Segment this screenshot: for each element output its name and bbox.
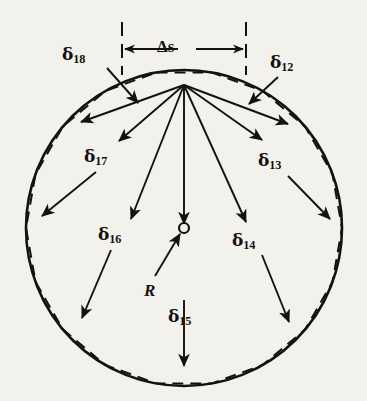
leader-radius — [155, 234, 180, 276]
radius-glyph: R — [144, 281, 155, 300]
delta-17-glyph: δ — [84, 146, 95, 166]
dimension-group — [122, 22, 246, 75]
leader-delta-17-fan — [81, 85, 184, 122]
delta-16-label: δ16 — [98, 226, 121, 246]
delta-17-label: δ17 — [84, 148, 107, 168]
center-point-marker — [179, 223, 189, 233]
delta-s-label: Δs — [157, 38, 174, 55]
leader-delta-12 — [249, 77, 278, 104]
delta-13-label: δ13 — [258, 152, 281, 172]
delta-12-subscript: 12 — [281, 60, 293, 74]
delta-14-subscript: 14 — [243, 238, 255, 252]
center-marker-group — [179, 223, 189, 233]
delta-12-label: δ12 — [270, 54, 293, 74]
delta-18-glyph: δ — [62, 44, 73, 64]
leader-delta-16-lower — [82, 250, 111, 318]
delta-12-glyph: δ — [270, 52, 281, 72]
delta-15-subscript: 15 — [179, 314, 191, 328]
delta-s-text: Δs — [157, 37, 174, 56]
delta-18-label: δ18 — [62, 46, 85, 66]
diagram-canvas — [0, 0, 367, 401]
delta-16-glyph: δ — [98, 224, 109, 244]
leader-delta-17-lower — [42, 172, 96, 216]
delta-15-label: δ15 — [168, 308, 191, 328]
delta-18-subscript: 18 — [73, 52, 85, 66]
delta-17-subscript: 17 — [95, 154, 107, 168]
leader-delta-16-upper — [131, 85, 184, 219]
delta-16-subscript: 16 — [109, 232, 121, 246]
delta-13-glyph: δ — [258, 150, 269, 170]
delta-14-label: δ14 — [232, 232, 255, 252]
leader-delta-13-lower — [288, 176, 330, 219]
delta-13-subscript: 13 — [269, 158, 281, 172]
delta-14-glyph: δ — [232, 230, 243, 250]
figure-container: Δs δ18 δ12 δ17 δ13 δ16 δ14 δ15 R — [0, 0, 367, 401]
radius-label: R — [144, 282, 155, 299]
delta-15-glyph: δ — [168, 306, 179, 326]
leader-delta-14-lower — [262, 255, 289, 322]
